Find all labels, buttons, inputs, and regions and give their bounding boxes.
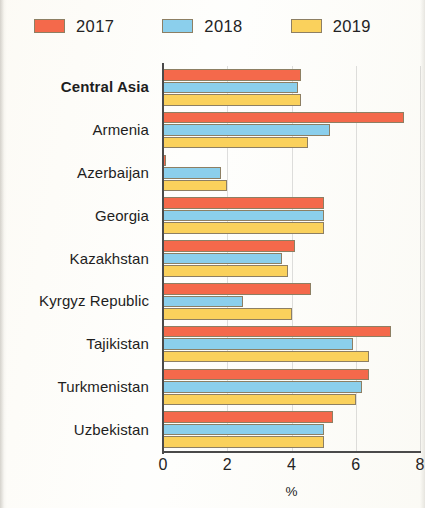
x-tick-label: 6 bbox=[351, 456, 360, 474]
category-label: Armenia bbox=[92, 121, 149, 138]
category-label: Georgia bbox=[95, 207, 149, 224]
bar[interactable] bbox=[163, 411, 333, 423]
page-edge-shadow-right bbox=[420, 0, 425, 508]
bar[interactable] bbox=[163, 137, 308, 149]
category-label: Azerbaijan bbox=[77, 164, 149, 181]
category-label: Central Asia bbox=[61, 78, 149, 95]
bar[interactable] bbox=[163, 394, 356, 406]
bar-group bbox=[163, 155, 420, 192]
bar[interactable] bbox=[163, 253, 282, 265]
bar[interactable] bbox=[163, 210, 324, 222]
bar-group bbox=[163, 283, 420, 320]
bar-group bbox=[163, 197, 420, 234]
bar[interactable] bbox=[163, 240, 295, 252]
bar-group bbox=[163, 326, 420, 363]
x-axis-title: % bbox=[163, 484, 420, 499]
bar[interactable] bbox=[163, 296, 243, 308]
x-tick-label: 4 bbox=[287, 456, 296, 474]
legend-item-2019[interactable]: 2019 bbox=[291, 17, 371, 36]
gridline-8 bbox=[420, 66, 421, 451]
bar[interactable] bbox=[163, 69, 301, 81]
bar-group bbox=[163, 240, 420, 277]
legend-swatch-2017 bbox=[34, 19, 65, 33]
x-axis-tick-labels: 02468 bbox=[163, 456, 420, 478]
legend-label-2019: 2019 bbox=[333, 17, 371, 36]
category-label: Kyrgyz Republic bbox=[39, 292, 149, 309]
bar[interactable] bbox=[163, 82, 298, 94]
legend-swatch-2019 bbox=[291, 19, 322, 33]
x-tick-label: 8 bbox=[416, 456, 425, 474]
y-axis-line bbox=[162, 63, 164, 454]
category-label: Uzbekistan bbox=[74, 421, 149, 438]
bar-group bbox=[163, 369, 420, 406]
category-label: Turkmenistan bbox=[57, 378, 149, 395]
bar[interactable] bbox=[163, 326, 391, 338]
bar[interactable] bbox=[163, 424, 324, 436]
bar[interactable] bbox=[163, 308, 292, 320]
bar[interactable] bbox=[163, 124, 330, 136]
x-axis-line bbox=[162, 451, 421, 453]
category-axis-labels: Central AsiaArmeniaAzerbaijanGeorgiaKaza… bbox=[0, 66, 157, 451]
bar[interactable] bbox=[163, 222, 324, 234]
bar-group bbox=[163, 69, 420, 106]
bar[interactable] bbox=[163, 369, 369, 381]
chart-plot-area bbox=[163, 66, 420, 451]
legend-item-2018[interactable]: 2018 bbox=[162, 17, 242, 36]
bar[interactable] bbox=[163, 381, 362, 393]
legend-swatch-2018 bbox=[162, 19, 193, 33]
category-label: Tajikistan bbox=[86, 335, 149, 352]
category-label: Kazakhstan bbox=[70, 250, 149, 267]
bar-group bbox=[163, 112, 420, 149]
bar[interactable] bbox=[163, 351, 369, 363]
legend-label-2018: 2018 bbox=[204, 17, 242, 36]
x-tick-label: 0 bbox=[159, 456, 168, 474]
bar[interactable] bbox=[163, 94, 301, 106]
legend-item-2017[interactable]: 2017 bbox=[34, 17, 114, 36]
legend-label-2017: 2017 bbox=[76, 17, 114, 36]
bar[interactable] bbox=[163, 283, 311, 295]
bar[interactable] bbox=[163, 265, 288, 277]
bar[interactable] bbox=[163, 112, 404, 124]
bar[interactable] bbox=[163, 197, 324, 209]
bar[interactable] bbox=[163, 180, 227, 192]
bar[interactable] bbox=[163, 436, 324, 448]
chart-legend: 2017 2018 2019 bbox=[0, 0, 425, 52]
x-tick-label: 2 bbox=[223, 456, 232, 474]
bar[interactable] bbox=[163, 167, 221, 179]
bar-group bbox=[163, 411, 420, 448]
bar[interactable] bbox=[163, 338, 353, 350]
